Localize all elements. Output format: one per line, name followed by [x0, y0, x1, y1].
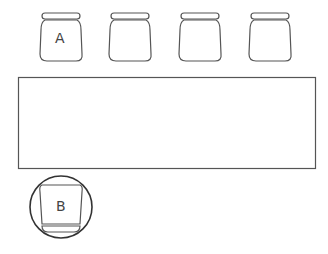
chair-label-b: B [56, 198, 66, 214]
chair-2 [109, 13, 151, 61]
chair-label-a: A [55, 30, 65, 46]
table [19, 78, 316, 169]
seating-diagram [0, 0, 328, 254]
chair-4 [249, 13, 291, 61]
chair-3 [179, 13, 221, 61]
